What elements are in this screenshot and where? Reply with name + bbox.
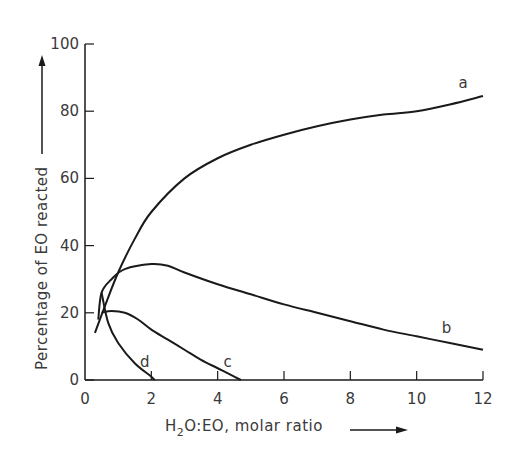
x-title-prefix: H: [165, 417, 177, 435]
x-tick-label: 6: [279, 390, 289, 408]
axes: 020406080100024681012: [50, 35, 492, 408]
x-tick-label: 2: [147, 390, 157, 408]
x-title-subscript: 2: [177, 426, 185, 439]
curve-c: [102, 311, 241, 380]
x-tick-label: 8: [346, 390, 356, 408]
y-axis-title: Percentage of EO reacted: [33, 166, 51, 370]
y-tick-label: 80: [60, 102, 79, 120]
curve-labels: abcd: [140, 74, 468, 371]
x-axis-title: H2O:EO, molar ratio: [165, 417, 323, 439]
curve-a: [95, 96, 483, 333]
y-tick-label: 100: [50, 35, 79, 53]
curve-label-d: d: [140, 353, 150, 371]
x-tick-label: 12: [473, 390, 492, 408]
y-tick-label: 20: [60, 304, 79, 322]
curve-b: [98, 264, 483, 350]
x-tick-label: 4: [213, 390, 223, 408]
curve-label-a: a: [458, 74, 467, 92]
y-tick-label: 60: [60, 169, 79, 187]
y-axis-title-text: Percentage of EO reacted: [33, 166, 51, 370]
curve-label-b: b: [442, 319, 452, 337]
x-tick-label: 0: [80, 390, 90, 408]
x-tick-label: 10: [407, 390, 426, 408]
y-axis-arrow-icon: [39, 55, 46, 154]
y-tick-label: 40: [60, 237, 79, 255]
curves: [95, 96, 483, 380]
x-title-rest: O:EO, molar ratio: [184, 417, 323, 435]
x-axis-arrow-icon: [350, 427, 408, 434]
chart-canvas: 020406080100024681012 abcd Percentage of…: [0, 0, 517, 468]
y-tick-label: 0: [69, 371, 79, 389]
curve-label-c: c: [223, 353, 231, 371]
